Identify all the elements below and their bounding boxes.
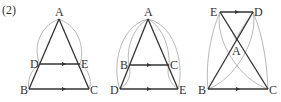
figure-3: E D A B C [198,5,277,97]
arrow-ed-icon [235,10,239,14]
figure-1: A D E B C [20,5,98,97]
label-d: D [110,83,119,97]
arrow-bc-icon [236,87,240,91]
arc-eb [207,12,220,89]
label-a: A [232,44,241,58]
arrow-bc-icon [62,87,66,91]
edge-ad [120,19,148,89]
arrow-de-icon [62,62,66,66]
label-e: E [179,83,186,97]
label-a: A [144,5,153,19]
problem-label: (2) [2,3,16,17]
label-b: B [20,83,28,97]
label-b: B [120,58,128,72]
label-c: C [170,58,178,72]
label-b: B [198,83,206,97]
figure-2: A B C D E [110,5,186,97]
label-e: E [210,5,217,19]
diagram-canvas: (2) A D E B C A B C D E [0,0,281,102]
arrow-bc-icon [147,63,151,67]
label-e: E [81,57,88,71]
arrow-de-icon [147,87,151,91]
label-c: C [269,83,277,97]
label-d: D [254,5,263,19]
edge-ae [148,19,178,89]
label-c: C [90,83,98,97]
label-d: D [30,57,39,71]
label-a: A [55,5,64,19]
